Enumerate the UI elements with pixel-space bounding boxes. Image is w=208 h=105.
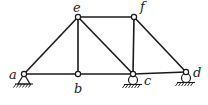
member-ae bbox=[24, 17, 78, 74]
node-label-e: e bbox=[73, 0, 81, 15]
node-label-d: d bbox=[193, 65, 201, 80]
node-label-b: b bbox=[74, 81, 82, 96]
node-label-a: a bbox=[9, 67, 17, 82]
joint-e bbox=[75, 14, 80, 19]
member-fd bbox=[134, 17, 186, 72]
truss-members bbox=[24, 17, 186, 74]
joint-b bbox=[75, 71, 80, 76]
node-label-f: f bbox=[139, 0, 147, 14]
member-cd bbox=[133, 72, 186, 74]
joint-f bbox=[131, 14, 136, 19]
truss-diagram: a b c d e f bbox=[0, 0, 208, 105]
member-fc bbox=[133, 17, 134, 74]
member-ec bbox=[78, 17, 133, 74]
joint-c bbox=[130, 71, 135, 76]
node-label-c: c bbox=[144, 73, 152, 88]
truss-supports bbox=[14, 74, 196, 89]
roller-support-c-icon bbox=[123, 76, 143, 89]
joint-a bbox=[21, 71, 26, 76]
joint-d bbox=[183, 69, 188, 74]
node-labels: a b c d e f bbox=[9, 0, 201, 96]
